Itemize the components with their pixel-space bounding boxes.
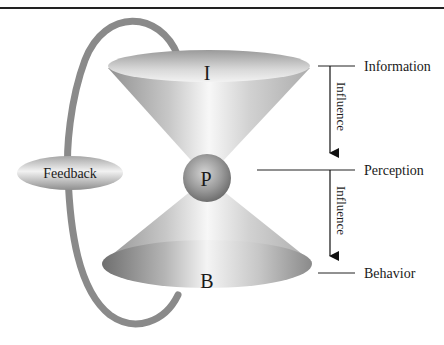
perception-sphere: P (183, 154, 231, 202)
behavior-cone-label: B (200, 270, 213, 292)
perception-sphere-label: P (200, 168, 211, 190)
influence-label-1: Influence (334, 82, 349, 131)
perception-label: Perception (364, 163, 424, 178)
feedback-label: Feedback (43, 166, 97, 181)
information-label: Information (364, 59, 431, 74)
influence-label-2: Influence (334, 186, 349, 235)
feedback-node: Feedback (17, 156, 123, 190)
information-cone-label: I (204, 62, 211, 84)
behavior-label: Behavior (364, 266, 416, 281)
diagram-canvas: I B P Feedback Information Perception Be… (0, 0, 444, 345)
